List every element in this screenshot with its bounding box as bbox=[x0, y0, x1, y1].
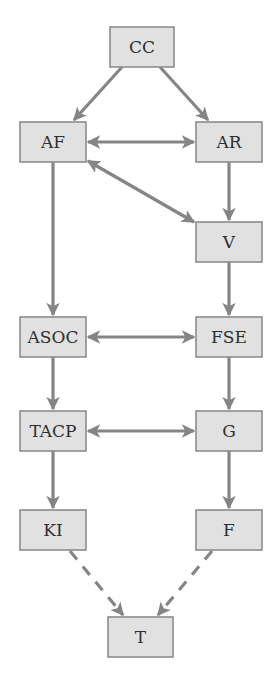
node-label: KI bbox=[43, 520, 62, 540]
node-af: AF bbox=[20, 122, 86, 162]
node-label: AF bbox=[40, 132, 65, 152]
node-label: G bbox=[222, 421, 236, 441]
node-cc: CC bbox=[110, 27, 174, 67]
node-f: F bbox=[196, 510, 262, 550]
node-label: CC bbox=[129, 37, 155, 57]
flow-diagram: CC AF AR V ASOC FSE TACP G KI F T bbox=[0, 0, 275, 692]
node-ki: KI bbox=[20, 510, 86, 550]
edge-cc-to-ar bbox=[160, 67, 208, 120]
node-label: V bbox=[222, 232, 236, 252]
node-ar: AR bbox=[196, 122, 262, 162]
node-asoc: ASOC bbox=[20, 317, 86, 357]
node-v: V bbox=[196, 222, 262, 262]
edge-ki-to-t-dashed bbox=[70, 551, 123, 615]
node-tacp: TACP bbox=[20, 411, 86, 451]
node-label: TACP bbox=[29, 421, 76, 441]
edge-af-v-bidirectional bbox=[88, 161, 194, 222]
node-label: AR bbox=[215, 132, 242, 152]
node-label: T bbox=[135, 627, 147, 647]
node-t: T bbox=[108, 617, 173, 657]
node-g: G bbox=[196, 411, 262, 451]
edge-f-to-t-dashed bbox=[158, 551, 212, 615]
node-label: FSE bbox=[211, 327, 247, 347]
node-label: F bbox=[223, 520, 235, 540]
node-fse: FSE bbox=[196, 317, 262, 357]
edge-cc-to-af bbox=[74, 67, 122, 120]
node-label: ASOC bbox=[27, 327, 79, 347]
